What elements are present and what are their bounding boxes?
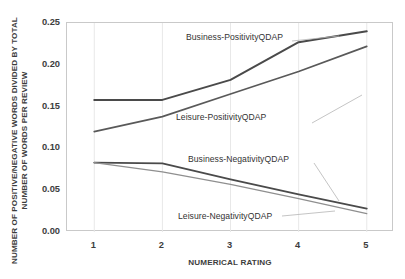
x-axis-title: NUMERICAL RATING — [60, 258, 400, 267]
annotation-leader-line — [312, 95, 362, 123]
chart-container: NUMBER OF POSITIVE/NEGATIVE WORDS DIVIDE… — [0, 0, 405, 279]
y-axis-tick-labels: 0.000.050.100.150.200.25 — [22, 0, 60, 279]
x-tick-label: 5 — [354, 240, 378, 250]
x-tick-label: 3 — [218, 240, 242, 250]
plot-area — [66, 22, 393, 231]
y-tick-label: 0.00 — [26, 226, 60, 236]
y-tick-label: 0.10 — [26, 142, 60, 152]
series-annotation-label: Leisure-PositivityQDAP — [176, 112, 266, 122]
series-annotation-label: Leisure-NegativityQDAP — [178, 211, 272, 221]
x-tick-label: 4 — [286, 240, 310, 250]
series-annotation-label: Business-PositivityQDAP — [186, 32, 283, 42]
series-annotation-label: Business-NegativityQDAP — [188, 154, 289, 164]
x-tick-label: 1 — [81, 240, 105, 250]
y-tick-label: 0.15 — [26, 101, 60, 111]
plot-lines — [67, 23, 394, 232]
y-tick-label: 0.20 — [26, 59, 60, 69]
y-tick-label: 0.25 — [26, 17, 60, 27]
annotation-leader-line — [314, 163, 339, 201]
annotation-leader-line — [282, 211, 335, 216]
x-tick-label: 2 — [149, 240, 173, 250]
y-tick-label: 0.05 — [26, 184, 60, 194]
x-axis-tick-labels: 12345 — [0, 240, 405, 256]
